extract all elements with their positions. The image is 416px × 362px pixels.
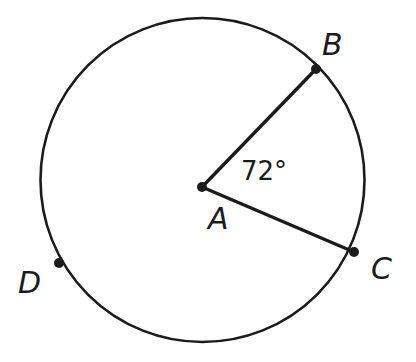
point-label-b: B [322, 27, 343, 62]
circle-diagram-canvas: A B C D 72° [0, 0, 416, 362]
point-label-c: C [371, 251, 392, 286]
point-marker-d [54, 258, 64, 268]
point-marker-c [349, 247, 359, 257]
point-label-d: D [18, 265, 41, 300]
point-marker-a [197, 182, 207, 192]
point-marker-b [311, 64, 321, 74]
point-label-a: A [206, 201, 229, 236]
central-angle-label: 72° [241, 156, 287, 186]
geometry-figure: A B C D 72° [0, 0, 416, 362]
